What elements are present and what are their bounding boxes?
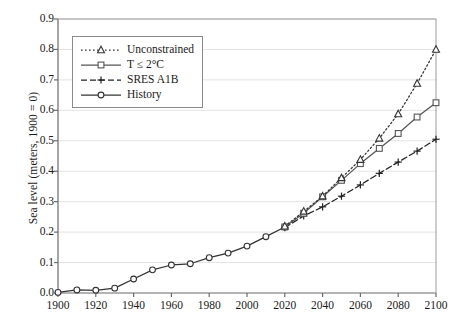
data-point-marker-circle	[93, 287, 99, 293]
x-tick-label: 1920	[84, 300, 107, 312]
data-point-marker-square	[414, 114, 420, 120]
data-point-marker-plus	[97, 76, 104, 83]
data-point-marker-square	[395, 131, 401, 137]
y-tick-label: 0.4	[28, 165, 54, 177]
y-tick-label: 0.5	[28, 135, 54, 147]
data-point-marker-plus	[414, 148, 421, 155]
data-point-marker-circle	[225, 250, 231, 256]
data-point-marker-circle	[112, 285, 118, 291]
data-point-marker-circle	[150, 267, 156, 273]
x-tick-label: 2020	[273, 300, 296, 312]
x-tick-label: 1980	[198, 300, 221, 312]
y-tick-label: 0.3	[28, 196, 54, 208]
data-point-marker-circle	[55, 289, 61, 295]
chart-legend: UnconstrainedT ≤ 2°CSRES A1BHistory	[72, 36, 203, 108]
legend-label: SRES A1B	[127, 74, 178, 86]
data-point-marker-plus	[432, 136, 439, 143]
data-point-marker-square	[376, 145, 382, 151]
legend-swatch-circle	[79, 88, 123, 102]
data-point-marker-circle	[263, 234, 269, 240]
series-sres-a1b	[281, 136, 439, 231]
y-tick-label: 0.1	[28, 257, 54, 269]
x-tick-label: 2100	[425, 300, 448, 312]
data-point-marker-plus	[319, 203, 326, 210]
data-point-marker-circle	[206, 255, 212, 261]
legend-swatch-triangle	[79, 43, 123, 57]
x-axis-tick-labels: 1900192019401960198020002020204020602080…	[0, 297, 453, 317]
data-point-marker-square	[433, 100, 439, 106]
data-point-marker-circle	[98, 92, 104, 98]
data-point-marker-triangle	[414, 80, 421, 87]
x-tick-label: 2080	[387, 300, 410, 312]
x-tick-label: 1960	[160, 300, 183, 312]
legend-item-unconstrained: Unconstrained	[79, 42, 194, 57]
legend-item-history: History	[79, 87, 194, 102]
x-tick-label: 1900	[47, 300, 70, 312]
legend-label: History	[127, 89, 162, 101]
data-point-marker-circle	[74, 287, 80, 293]
y-axis-tick-labels: 0.00.10.20.30.40.50.60.70.80.9	[0, 0, 54, 323]
series-history	[55, 224, 288, 295]
legend-swatch-square	[79, 58, 123, 72]
x-tick-label: 1940	[122, 300, 145, 312]
data-point-marker-circle	[131, 276, 137, 282]
y-tick-label: 0.2	[28, 226, 54, 238]
legend-item-t-2-c: T ≤ 2°C	[79, 57, 194, 72]
legend-label: T ≤ 2°C	[127, 59, 164, 71]
plot-area	[0, 0, 453, 323]
data-point-marker-plus	[357, 181, 364, 188]
x-tick-label: 2060	[349, 300, 372, 312]
legend-label: Unconstrained	[127, 44, 194, 56]
data-point-marker-plus	[395, 158, 402, 165]
data-point-marker-circle	[244, 243, 250, 249]
x-tick-label: 2040	[311, 300, 334, 312]
data-point-marker-plus	[338, 193, 345, 200]
y-tick-label: 0.8	[28, 44, 54, 56]
legend-swatch-plus	[79, 73, 123, 87]
y-tick-label: 0.9	[28, 13, 54, 25]
x-tick-label: 2000	[236, 300, 259, 312]
data-point-marker-square	[98, 62, 104, 68]
legend-item-sres-a1b: SRES A1B	[79, 72, 194, 87]
data-point-marker-circle	[169, 262, 175, 268]
y-tick-label: 0.6	[28, 105, 54, 117]
y-tick-label: 0.7	[28, 74, 54, 86]
data-point-marker-triangle	[433, 46, 440, 53]
sea-level-chart-figure: Sea level (meters, 1900 = 0) 0.00.10.20.…	[0, 0, 453, 323]
data-point-marker-circle	[187, 261, 193, 267]
